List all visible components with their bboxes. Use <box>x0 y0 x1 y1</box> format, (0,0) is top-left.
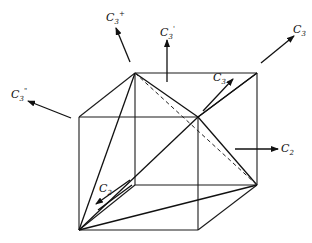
label-sup: ' <box>173 25 175 33</box>
label-c2-inner: C2 <box>99 183 112 197</box>
label-sub: 2 <box>107 189 111 197</box>
label-sub: 2 <box>289 149 293 157</box>
label-c3-inner: C3 <box>213 72 226 86</box>
label-c3-top-right: C3 <box>293 24 306 38</box>
label-sub: 3 <box>301 30 305 38</box>
label-sup: " <box>24 87 27 95</box>
label-sub: 3 <box>221 78 225 86</box>
label-sup: + <box>119 10 125 18</box>
label-sub: 3 <box>114 18 118 26</box>
cube-symmetry-diagram <box>0 0 312 243</box>
label-c3-left: C3" <box>11 88 27 103</box>
label-c3-top-mid: C3' <box>160 26 175 41</box>
label-c3-top-left: C3+ <box>106 11 125 26</box>
label-c2-right: C2 <box>281 143 294 157</box>
label-sub: 3 <box>19 95 23 103</box>
c3-top-left-arrow <box>116 28 130 62</box>
c3-top-right-arrow <box>261 36 294 63</box>
c3-left-arrow <box>28 101 71 118</box>
label-sub: 3 <box>168 33 172 41</box>
